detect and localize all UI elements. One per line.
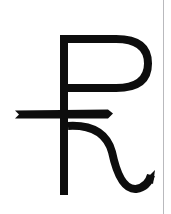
scan-canvas: Rupee-like currency symbol [0, 0, 171, 214]
horizontal-crossbar-stroke [15, 110, 113, 119]
p-bowl-stroke [64, 39, 148, 88]
scan-edge-line [163, 0, 164, 214]
currency-symbol-glyph [0, 0, 171, 214]
curled-tail-stroke [68, 126, 151, 189]
